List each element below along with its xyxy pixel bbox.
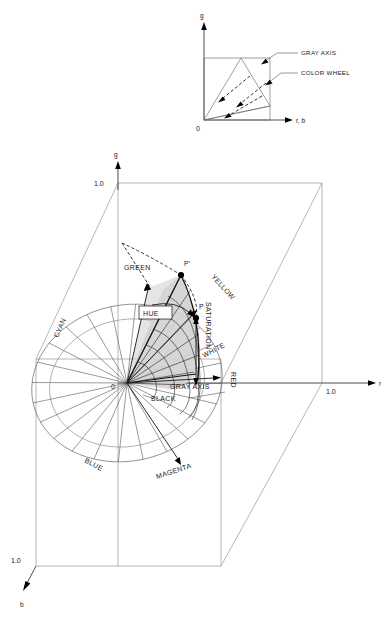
hue-label-group: HUE <box>139 306 172 319</box>
p-label: P <box>199 303 204 310</box>
r-axis-arrowhead <box>368 380 376 386</box>
top-origin-label: 0 <box>196 125 200 132</box>
black-label: BLACK <box>151 395 176 402</box>
b-axis-tick-label: 1.0 <box>11 557 21 564</box>
top-color-wheel-label: COLOR WHEEL <box>301 69 350 76</box>
p-marker <box>193 315 199 321</box>
point-p-prime: P' <box>178 260 191 278</box>
yellow-label-group: YELLOW <box>210 273 236 301</box>
black-label-group: BLACK <box>143 392 225 402</box>
p-prime-label: P' <box>184 260 191 267</box>
saturation-label-group: SATURATION <box>205 302 212 350</box>
figure-svg: g r, b 0 GRAY AXIS COLOR WHEEL <box>0 0 391 623</box>
magenta-label: MAGENTA <box>155 462 192 480</box>
top-rb-axis-label: r, b <box>296 117 305 124</box>
r-axis-label: r <box>379 380 382 387</box>
top-g-axis-arrowhead <box>201 22 207 30</box>
g-axis-label: g <box>114 151 118 159</box>
main-diagram: g 1.0 r 1.0 b 1.0 0 <box>11 151 382 608</box>
red-label: RED <box>230 372 237 388</box>
r-axis-tick-label: 1.0 <box>326 388 336 395</box>
top-triangle-base <box>204 106 270 120</box>
p-prime-marker <box>178 272 184 278</box>
g-axis-tick-label: 1.0 <box>94 180 104 187</box>
b-axis-line <box>27 566 36 583</box>
green-label: GREEN <box>124 264 151 271</box>
top-gray-axis-label: GRAY AXIS <box>301 49 336 56</box>
saturation-label: SATURATION <box>205 302 212 350</box>
magenta-label-group: MAGENTA <box>155 462 192 480</box>
top-annotation-color-wheel: COLOR WHEEL <box>265 69 350 86</box>
figure-canvas: g r, b 0 GRAY AXIS COLOR WHEEL <box>0 0 391 623</box>
g-axis-arrowhead <box>115 161 121 169</box>
red-label-group: RED <box>230 372 237 388</box>
yellow-label: YELLOW <box>210 273 236 301</box>
top-diagram: g r, b 0 GRAY AXIS COLOR WHEEL <box>196 12 350 132</box>
gray-axis-label: GRAY AXIS <box>170 383 210 390</box>
b-axis-label: b <box>20 601 24 608</box>
top-annotation-gray-axis: GRAY AXIS <box>261 49 336 65</box>
top-g-axis-label: g <box>200 12 204 20</box>
top-rb-axis-arrowhead <box>285 117 293 123</box>
hue-label: HUE <box>143 310 159 317</box>
